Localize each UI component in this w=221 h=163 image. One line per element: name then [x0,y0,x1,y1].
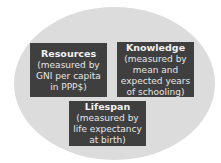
knowledge-desc-line: mean and [133,65,178,76]
knowledge-box: Knowledge (measured by mean and expected… [117,42,194,97]
knowledge-desc-line: (measured by [124,54,186,65]
knowledge-desc-line: of schooling) [127,87,185,98]
knowledge-title: Knowledge [126,42,185,54]
resources-title: Resources [41,48,96,60]
resources-desc-line: GNI per capita [36,71,101,82]
lifespan-desc-line: life expectancy [73,124,142,135]
resources-box: Resources (measured by GNI per capita in… [30,43,107,97]
knowledge-desc-line: expected years [121,76,190,87]
resources-desc-line: (measured by [37,60,99,71]
lifespan-desc-line: at birth) [89,135,126,146]
resources-desc-line: in PPP$) [50,82,87,93]
lifespan-box: Lifespan (measured by life expectancy at… [69,101,146,146]
lifespan-title: Lifespan [85,101,131,113]
lifespan-desc-line: (measured by [76,113,138,124]
